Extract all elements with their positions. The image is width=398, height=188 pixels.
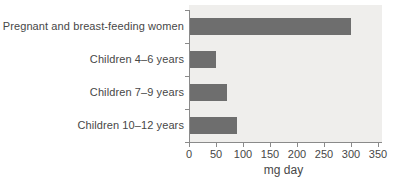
bar-chart-figure: Pregnant and breast-feeding womenChildre… [0,0,398,188]
bar [189,51,216,68]
y-axis-tick [185,109,189,110]
bar [189,84,227,101]
category-label: Pregnant and breast-feeding women [0,18,184,35]
bar [189,18,351,35]
x-axis-title: mg day [243,163,324,177]
y-axis-tick [185,43,189,44]
x-axis-tick [189,143,190,147]
y-axis-tick [185,10,189,11]
x-axis-tick [270,143,271,147]
x-tick-label: 350 [361,148,395,160]
y-axis-line [189,10,190,143]
y-axis-tick [185,76,189,77]
category-label: Children 10–12 years [0,117,184,134]
x-axis-tick [378,143,379,147]
category-label: Children 4–6 years [0,51,184,68]
category-label: Children 7–9 years [0,84,184,101]
x-axis-tick [216,143,217,147]
x-axis-tick [297,143,298,147]
x-axis-tick [324,143,325,147]
x-axis-tick [351,143,352,147]
bar [189,117,237,134]
x-axis-tick [243,143,244,147]
